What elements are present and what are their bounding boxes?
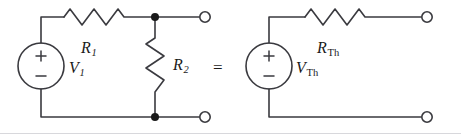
wire-left-bottom [41,89,155,117]
resistor-r1-zigzag [64,9,155,25]
source-vth-label-sub: Th [306,67,318,78]
resistor-r2-zigzag [146,17,164,117]
terminal-right-bottom-open-circle [422,112,432,122]
wire-left-top [41,17,64,43]
terminal-left-bottom-open-circle [200,112,210,122]
source-v1-label-main: V [69,59,79,76]
source-vth-label-main: V [296,59,306,76]
resistor-rth-label-main: R [317,39,327,56]
resistor-r1-label: R1 [81,40,96,56]
voltage-source-vth-plus-icon [264,51,274,61]
resistor-r2-label-main: R [173,56,183,73]
source-v1-label-sub: 1 [79,67,84,78]
wire-right-top [269,17,305,43]
resistor-rth-zigzag [305,9,421,25]
voltage-source-vth-circle [246,43,292,89]
resistor-r1-label-sub: 1 [91,47,96,58]
figure-bottom-border [0,133,461,134]
resistor-rth-label: RTh [317,40,339,56]
resistor-r1-label-main: R [81,39,91,56]
equivalence-equals-sign: = [213,58,223,78]
terminal-right-top-open-circle [422,12,432,22]
right-circuit-group [246,9,432,122]
resistor-r2-label: R2 [173,57,188,73]
voltage-source-v1-plus-icon [36,51,46,61]
voltage-source-v1-circle [18,43,64,89]
source-v1-label: V1 [69,60,84,76]
source-vth-label: VTh [296,60,318,76]
resistor-r2-label-sub: 2 [183,64,188,75]
wire-right-bottom [269,89,421,117]
junction-dot-left-bottom [151,113,159,121]
terminal-left-top-open-circle [200,12,210,22]
circuit-diagram-figure: R1 V1 R2 = RTh VTh [0,0,461,134]
resistor-rth-label-sub: Th [327,47,339,58]
junction-dot-left-top [151,13,159,21]
